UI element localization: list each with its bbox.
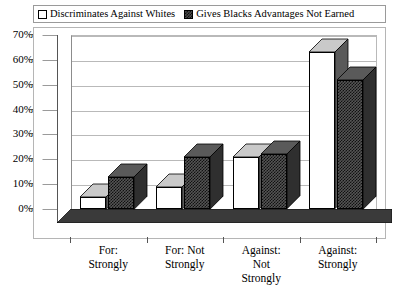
x-axis-tick-label: Against:Strongly bbox=[300, 243, 377, 271]
chart-plot-frame bbox=[33, 27, 386, 239]
x-axis-label-line: For: Not bbox=[147, 243, 224, 257]
x-axis-tick-label: Against:NotStrongly bbox=[223, 243, 300, 285]
legend-label-series-1: Discriminates Against Whites bbox=[50, 8, 175, 20]
depth-gridline bbox=[57, 134, 72, 148]
bar-advantages bbox=[261, 154, 287, 209]
bar-shape bbox=[261, 154, 287, 209]
bar-shape bbox=[309, 52, 335, 209]
depth-gridline bbox=[57, 35, 72, 49]
bar-shape bbox=[108, 177, 134, 209]
bar-advantages bbox=[337, 80, 363, 209]
white-square-icon bbox=[38, 10, 47, 19]
hatched-square-icon bbox=[184, 10, 193, 19]
x-axis-label-line: Against: bbox=[300, 243, 377, 257]
bar-front-face bbox=[184, 157, 210, 209]
depth-gridline bbox=[57, 184, 72, 198]
bar-front-face bbox=[156, 187, 182, 209]
plot-left-wall bbox=[57, 35, 72, 223]
bar-front-face bbox=[233, 157, 259, 209]
bar-shape bbox=[233, 157, 259, 209]
x-axis-tick-mark bbox=[70, 237, 71, 243]
plot-area bbox=[57, 35, 377, 223]
x-axis-label-line: Strongly bbox=[147, 257, 224, 271]
bar-front-face bbox=[80, 197, 106, 209]
x-axis-label-line: Not bbox=[223, 257, 300, 271]
bar-front-face bbox=[337, 80, 363, 209]
x-axis-tick-mark bbox=[147, 237, 148, 243]
bar-advantages bbox=[108, 177, 134, 209]
legend-entry-series-1: Discriminates Against Whites bbox=[38, 8, 175, 20]
x-axis-tick-label: For:Strongly bbox=[70, 243, 147, 271]
legend-label-series-2: Gives Blacks Advantages Not Earned bbox=[196, 8, 354, 20]
x-axis-label-line: Against: bbox=[223, 243, 300, 257]
bar-shape bbox=[337, 80, 363, 209]
y-axis: 0%10%20%30%40%50%60%70% bbox=[0, 27, 33, 239]
chart-legend: Discriminates Against Whites Gives Black… bbox=[33, 5, 386, 23]
bar-discriminates bbox=[156, 187, 182, 209]
depth-gridline bbox=[57, 159, 72, 173]
bar-front-face bbox=[108, 177, 134, 209]
bar-front-face bbox=[261, 154, 287, 209]
bar-discriminates bbox=[309, 52, 335, 209]
x-axis-label-line: For: bbox=[70, 243, 147, 257]
bar-advantages bbox=[184, 157, 210, 209]
x-axis-tick-label: For: NotStrongly bbox=[147, 243, 224, 271]
bar-front-face bbox=[309, 52, 335, 209]
bar-discriminates bbox=[80, 197, 106, 209]
legend-entry-series-2: Gives Blacks Advantages Not Earned bbox=[184, 8, 354, 20]
gridline bbox=[72, 36, 376, 37]
bar-shape bbox=[156, 187, 182, 209]
y-axis-line bbox=[57, 35, 58, 223]
x-axis-tick-mark bbox=[223, 237, 224, 243]
depth-gridline bbox=[57, 60, 72, 74]
bar-shape bbox=[80, 197, 106, 209]
x-axis-label-line: Strongly bbox=[70, 257, 147, 271]
plot-floor bbox=[57, 209, 392, 223]
x-axis-label-line: Strongly bbox=[300, 257, 377, 271]
depth-gridline bbox=[57, 85, 72, 99]
depth-gridline bbox=[57, 110, 72, 124]
bar-discriminates bbox=[233, 157, 259, 209]
bar-shape bbox=[184, 157, 210, 209]
x-axis-label-line: Strongly bbox=[223, 271, 300, 285]
x-axis-tick-mark bbox=[376, 237, 377, 243]
x-axis-labels: For:StronglyFor: NotStronglyAgainst:NotS… bbox=[33, 243, 386, 292]
x-axis-tick-mark bbox=[300, 237, 301, 243]
